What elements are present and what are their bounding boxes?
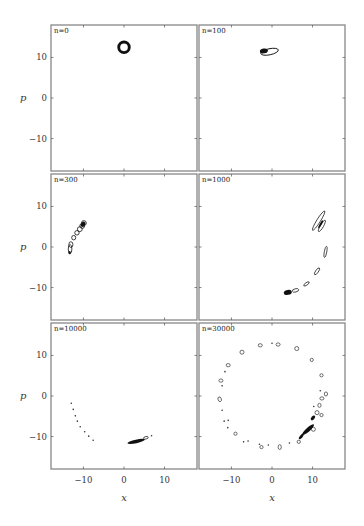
x-tick-label: 10 — [307, 475, 318, 485]
x-tick-label: 0 — [269, 475, 274, 485]
panel-frame — [199, 25, 345, 171]
y-tick-label: −10 — [29, 432, 47, 442]
data-dot — [79, 426, 81, 428]
panel-frame — [199, 323, 345, 469]
panel-n-0: n=0100−10p — [20, 25, 197, 171]
data-dot — [151, 435, 153, 437]
panel-n-10000: n=10000100−10p−10010x — [20, 323, 197, 503]
y-tick-label: 0 — [42, 242, 47, 252]
data-dot — [223, 420, 225, 422]
data-dot — [259, 443, 261, 445]
panel-label: n=0 — [54, 27, 69, 35]
data-dot — [70, 403, 72, 405]
x-tick-label: 0 — [121, 475, 126, 485]
panel-n-100: n=100 — [199, 25, 345, 171]
panel-label: n=300 — [54, 176, 78, 184]
data-dot — [88, 435, 90, 437]
data-dot — [84, 431, 86, 433]
data-dot — [221, 385, 223, 387]
data-dot — [289, 442, 291, 444]
panel-n-1000: n=1000 — [199, 174, 345, 320]
y-tick-label: 10 — [36, 52, 47, 62]
data-dot — [75, 415, 77, 417]
y-tick-label: −10 — [29, 283, 47, 293]
y-tick-label: −10 — [29, 134, 47, 144]
y-axis-label: p — [20, 241, 27, 252]
panel-n-300: n=300100−10p — [20, 174, 197, 320]
panel-label: n=30000 — [202, 325, 235, 333]
data-dot — [243, 441, 245, 443]
data-dot — [268, 444, 270, 446]
x-tick-label: −10 — [74, 475, 92, 485]
data-dot — [224, 371, 226, 373]
data-dot — [92, 439, 94, 441]
panel-frame — [51, 25, 197, 171]
panel-frame — [51, 174, 197, 320]
data-dot — [77, 420, 79, 422]
x-axis-label: x — [269, 492, 275, 503]
y-axis-label: p — [20, 92, 27, 103]
panel-frame — [199, 174, 345, 320]
data-dot — [227, 420, 229, 422]
panel-n-30000: n=30000−10010x — [199, 323, 345, 503]
data-dot — [271, 342, 273, 344]
y-tick-label: 0 — [42, 93, 47, 103]
x-axis-label: x — [121, 492, 127, 503]
data-dot — [227, 427, 229, 429]
y-tick-label: 10 — [36, 201, 47, 211]
panel-label: n=10000 — [54, 325, 87, 333]
x-tick-label: −10 — [222, 475, 240, 485]
y-axis-label: p — [20, 390, 27, 401]
x-tick-label: 10 — [159, 475, 170, 485]
data-dot — [221, 409, 223, 411]
figure: n=0100−10pn=100n=300100−10pn=1000n=10000… — [0, 0, 364, 526]
data-dot — [319, 390, 321, 392]
data-dot — [247, 440, 249, 442]
y-tick-label: 0 — [42, 391, 47, 401]
y-tick-label: 10 — [36, 350, 47, 360]
data-dot — [313, 406, 315, 408]
panel-frame — [51, 323, 197, 469]
panel-label: n=1000 — [202, 176, 230, 184]
data-dot — [73, 409, 75, 411]
panel-label: n=100 — [202, 27, 226, 35]
